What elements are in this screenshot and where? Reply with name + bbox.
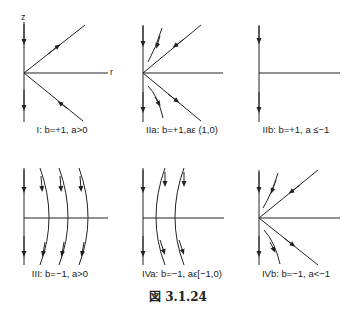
panel-III-diagram <box>24 168 108 265</box>
panel-IIa-diagram <box>143 25 223 122</box>
panel-IVa-diagram <box>143 168 224 265</box>
panel-IVb-label: IVb: b=−1, a<−1 <box>262 268 330 279</box>
phase-portrait-figure <box>0 0 356 312</box>
panel-IIb-diagram <box>259 25 340 122</box>
panel-IIb-label: IIb: b=+1, a ≤−1 <box>263 124 330 135</box>
panel-I-label: I: b=+1, a>0 <box>37 124 88 135</box>
panel-III-label: III: b=−1, a>0 <box>32 268 88 279</box>
r-axis-label: r <box>110 67 113 77</box>
panel-I-diagram <box>24 22 108 122</box>
figure-caption: 図 3.1.24 <box>149 287 207 304</box>
panel-IVb-diagram <box>259 170 340 265</box>
panel-IIa-label: IIa: b=+1,aε (1,0) <box>146 124 218 135</box>
z-axis-label: z <box>21 12 26 22</box>
panel-IVa-label: IVa: b=−1, aε[−1,0) <box>142 268 222 279</box>
